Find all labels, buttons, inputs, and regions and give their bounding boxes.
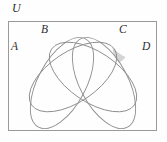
label-set-a: A — [11, 41, 18, 53]
venn-diagram-canvas — [0, 0, 167, 142]
label-universe: U — [12, 2, 21, 14]
venn-diagram-figure: U A B C D — [0, 0, 167, 142]
label-set-d: D — [142, 41, 150, 53]
label-set-c: C — [119, 24, 127, 36]
ellipse-group — [17, 28, 148, 139]
label-set-b: B — [41, 24, 48, 36]
